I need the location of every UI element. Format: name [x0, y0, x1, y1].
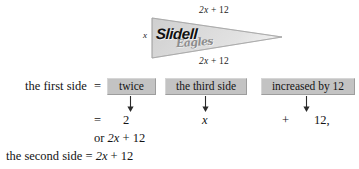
value-coefficient: 2 — [123, 113, 129, 127]
value-operator: + — [282, 113, 289, 127]
value-variable: x — [202, 113, 208, 127]
down-arrow-icon-1 — [126, 96, 135, 113]
down-arrow-icon-3 — [302, 96, 311, 113]
second-side-line: the second side = 2x + 12 — [6, 149, 133, 163]
label-left-side: x — [143, 30, 147, 40]
pennant-script-text: Eagles — [176, 35, 214, 51]
label-bottom-side: 2x + 12 — [199, 56, 229, 66]
phrase-box-third-side: the third side — [165, 78, 247, 95]
value-constant: 12, — [314, 113, 330, 127]
phrase-box-increased-by-12: increased by 12 — [261, 78, 355, 95]
down-arrow-icon-2 — [201, 96, 210, 113]
or-expression-line: or 2x + 12 — [94, 131, 145, 145]
phrase-box-twice: twice — [107, 78, 156, 95]
label-top-side: 2x + 12 — [199, 5, 229, 15]
pennant-figure: Slidell Eagles 2x + 12 2x + 12 x — [0, 0, 359, 72]
equals-sign-top: = — [94, 79, 101, 93]
equals-sign-result: = — [94, 113, 101, 127]
first-side-label: the first side — [25, 79, 87, 93]
